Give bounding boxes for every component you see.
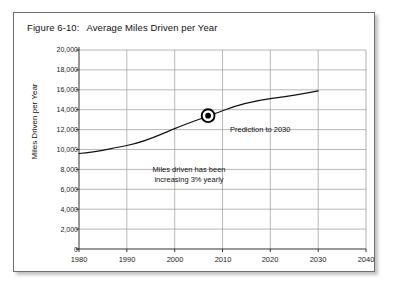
current-year-marker (202, 109, 215, 122)
annotation-growth-line1: Miles driven has been (124, 165, 254, 175)
x-tick-2040: 2040 (343, 255, 389, 264)
x-tick-1980: 1980 (56, 255, 102, 264)
x-tick-1990: 1990 (104, 255, 150, 264)
figure-panel: Figure 6-10:Average Miles Driven per Yea… (13, 12, 375, 272)
x-tick-2010: 2010 (200, 255, 246, 264)
x-tick-2030: 2030 (295, 255, 341, 264)
x-tick-2000: 2000 (152, 255, 198, 264)
annotation-prediction-note: Prediction to 2030 (230, 125, 330, 135)
x-tick-2020: 2020 (247, 255, 293, 264)
annotation-growth-line2: increasing 3% yearly (124, 175, 254, 185)
annotation-growth-note: Miles driven has been increasing 3% year… (124, 165, 254, 185)
chart-area: Miles Driven per Year 20,000 18,000 16,0… (14, 13, 376, 273)
plot-canvas (14, 13, 376, 273)
